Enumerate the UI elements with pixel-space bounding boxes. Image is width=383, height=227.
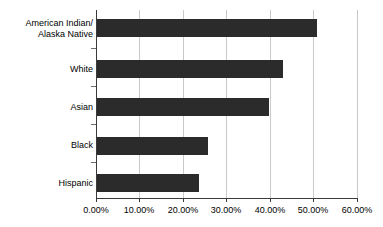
y-axis-line (96, 10, 97, 199)
x-axis-tick (183, 198, 184, 202)
gridline-40 (270, 10, 271, 198)
x-axis-tick (270, 198, 271, 202)
bar-black (96, 137, 208, 155)
bar-american-indian-alaska-native (96, 19, 317, 37)
x-axis-tick (313, 198, 314, 202)
y-axis-label-asian: Asian (1, 102, 93, 113)
gridline-60 (357, 10, 358, 198)
x-axis-label-60: 60.00% (327, 205, 383, 216)
x-axis-tick (96, 198, 97, 202)
y-axis-label-white: White (1, 64, 93, 75)
x-axis-tick (226, 198, 227, 202)
bar-chart: American Indian/ Alaska Native White Asi… (0, 0, 383, 227)
bar-hispanic (96, 174, 199, 192)
plot-area (96, 10, 357, 198)
bar-white (96, 60, 283, 78)
x-axis-line (96, 198, 358, 199)
x-axis-tick (139, 198, 140, 202)
gridline-50 (313, 10, 314, 198)
y-axis-label-hispanic: Hispanic (1, 178, 93, 189)
y-axis-label-black: Black (1, 140, 93, 151)
y-axis-label-american-indian-alaska-native: American Indian/ Alaska Native (1, 18, 93, 39)
bar-asian (96, 98, 269, 116)
x-axis-tick (357, 198, 358, 202)
y-axis-labels: American Indian/ Alaska Native White Asi… (0, 0, 93, 227)
